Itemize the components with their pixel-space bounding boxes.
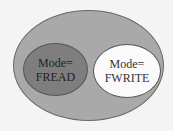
fread-label: Mode= FREAD <box>36 56 75 84</box>
fwrite-label-line1: Mode= <box>105 57 150 71</box>
fwrite-label: Mode= FWRITE <box>105 57 150 85</box>
fread-set-circle: Mode= FREAD <box>23 43 88 96</box>
fwrite-set-circle: Mode= FWRITE <box>93 44 161 98</box>
fread-label-line2: FREAD <box>36 70 75 84</box>
fread-label-line1: Mode= <box>36 56 75 70</box>
fwrite-label-line2: FWRITE <box>105 71 150 85</box>
